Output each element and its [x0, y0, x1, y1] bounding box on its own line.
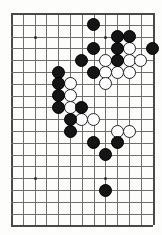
black-stone: [111, 136, 124, 149]
white-stone: [111, 66, 124, 79]
grid-line-horizontal: [11, 190, 153, 191]
black-stone: [52, 101, 65, 114]
grid-line-horizontal: [11, 143, 153, 144]
black-stone: [87, 136, 100, 149]
grid-line-horizontal: [11, 96, 153, 97]
black-stone: [99, 148, 112, 161]
grid-line-horizontal: [11, 202, 153, 203]
black-stone: [111, 54, 124, 67]
black-stone: [123, 30, 136, 43]
star-point: [104, 177, 107, 180]
white-stone: [123, 66, 136, 79]
black-stone: [75, 101, 88, 114]
grid-line-horizontal: [11, 166, 153, 167]
grid-line-horizontal: [11, 225, 153, 227]
white-stone: [99, 77, 112, 90]
white-stone: [123, 125, 136, 138]
black-stone: [99, 184, 112, 197]
go-board-figure: [0, 0, 162, 235]
board-surface: [0, 0, 162, 235]
grid-line-horizontal: [11, 214, 153, 215]
white-stone: [99, 54, 112, 67]
white-stone: [87, 113, 100, 126]
grid-line-horizontal: [11, 178, 153, 179]
black-stone: [64, 113, 77, 126]
white-stone: [134, 54, 147, 67]
star-point: [34, 36, 37, 39]
black-stone: [87, 42, 100, 55]
star-point: [34, 177, 37, 180]
black-stone: [87, 18, 100, 31]
black-stone: [87, 66, 100, 79]
grid-line-horizontal: [11, 84, 153, 85]
white-stone: [123, 42, 136, 55]
black-stone: [111, 42, 124, 55]
black-stone: [75, 54, 88, 67]
grid-line-horizontal: [11, 13, 153, 15]
grid-line-horizontal: [11, 155, 153, 156]
grid-line-horizontal: [11, 25, 153, 26]
black-stone: [146, 42, 159, 55]
black-stone: [64, 125, 77, 138]
